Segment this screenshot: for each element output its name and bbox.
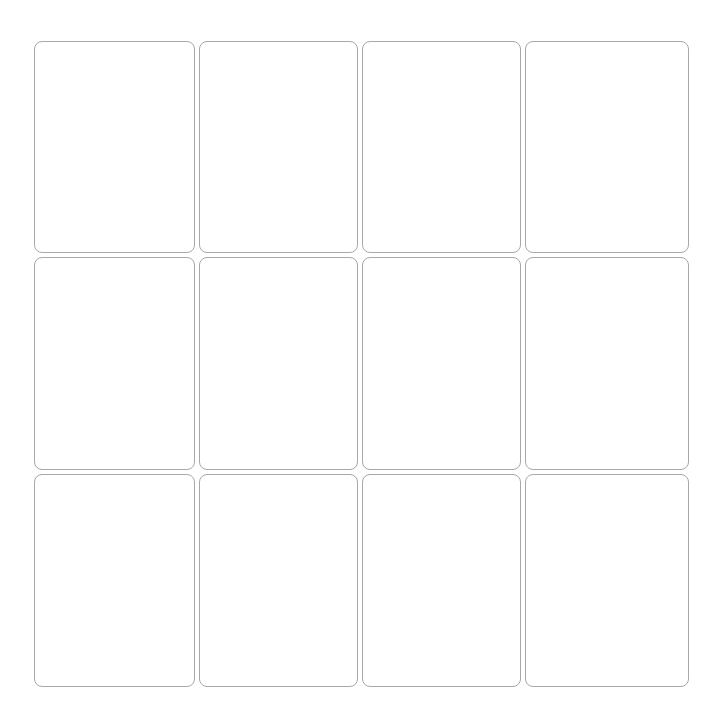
card-r2-c1[interactable]: [34, 257, 195, 470]
card-r3-c3[interactable]: [362, 474, 521, 687]
card-r3-c1[interactable]: [34, 474, 195, 687]
card-r1-c1[interactable]: [34, 41, 195, 253]
card-r2-c2[interactable]: [199, 257, 358, 470]
card-r3-c4[interactable]: [525, 474, 689, 687]
card-r1-c2[interactable]: [199, 41, 358, 253]
card-r2-c3[interactable]: [362, 257, 521, 470]
card-r1-c4[interactable]: [525, 41, 689, 253]
card-grid: [34, 41, 689, 687]
card-r3-c2[interactable]: [199, 474, 358, 687]
card-r1-c3[interactable]: [362, 41, 521, 253]
card-r2-c4[interactable]: [525, 257, 689, 470]
